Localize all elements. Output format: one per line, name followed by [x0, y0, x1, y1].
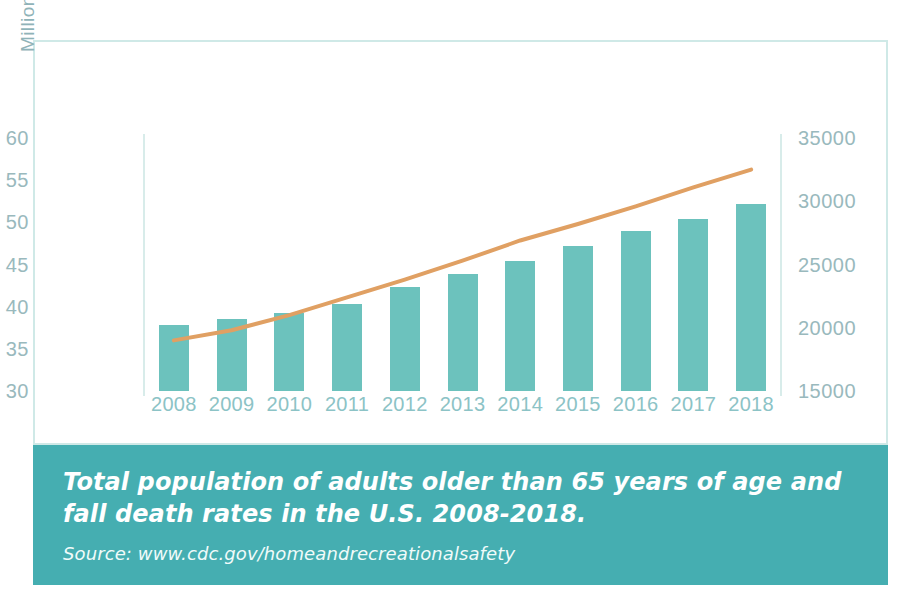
bar	[563, 246, 593, 391]
y-axis-right-tick-label: 20000	[798, 318, 856, 338]
bar	[274, 313, 304, 391]
y-axis-left-tick-label: 60	[6, 128, 29, 148]
y-axis-right-tick-label: 25000	[798, 255, 856, 275]
x-axis-tick-label: 2016	[607, 394, 665, 414]
y-axis-left-tick-label: 40	[6, 297, 29, 317]
bar	[217, 319, 247, 391]
caption-title: Total population of adults older than 65…	[63, 467, 858, 531]
bar	[448, 274, 478, 391]
bar	[621, 231, 651, 391]
x-axis-tick-label: 2010	[260, 394, 318, 414]
x-axis-tick-label: 2009	[203, 394, 261, 414]
x-axis-tick-label: 2018	[722, 394, 780, 414]
y-axis-left-tick-label: 55	[6, 170, 29, 190]
bar	[505, 261, 535, 391]
caption-block: Total population of adults older than 65…	[33, 445, 888, 585]
y-axis-right-tick-label: 15000	[798, 381, 856, 401]
bar	[159, 325, 189, 391]
x-axis-tick-label: 2008	[145, 394, 203, 414]
x-axis-tick-label: 2012	[376, 394, 434, 414]
x-axis-tick-label: 2014	[491, 394, 549, 414]
y-axis-left-tick-label: 45	[6, 255, 29, 275]
y-axis-right-tick-label: 30000	[798, 191, 856, 211]
bar	[390, 287, 420, 391]
caption-source: Source: www.cdc.gov/homeandrecreationals…	[63, 543, 858, 564]
right-axis-line	[780, 134, 782, 396]
x-axis-tick-label: 2011	[318, 394, 376, 414]
x-axis-tick-label: 2017	[664, 394, 722, 414]
figure-container: Millions 30354045505560 1500020000250003…	[33, 40, 888, 585]
bar	[678, 219, 708, 391]
bar	[736, 204, 766, 391]
y-axis-right-tick-label: 35000	[798, 128, 856, 148]
bar	[332, 304, 362, 391]
x-axis-tick-label: 2015	[549, 394, 607, 414]
x-axis-tick-label: 2013	[434, 394, 492, 414]
y-axis-left-tick-label: 35	[6, 339, 29, 359]
y-axis-left-title: Millions	[17, 0, 39, 52]
y-axis-left-tick-label: 50	[6, 212, 29, 232]
chart-plot-card: Millions 30354045505560 1500020000250003…	[33, 40, 888, 445]
plot-area: 2008200920102011201220132014201520162017…	[145, 138, 780, 391]
y-axis-left-tick-label: 30	[6, 381, 29, 401]
